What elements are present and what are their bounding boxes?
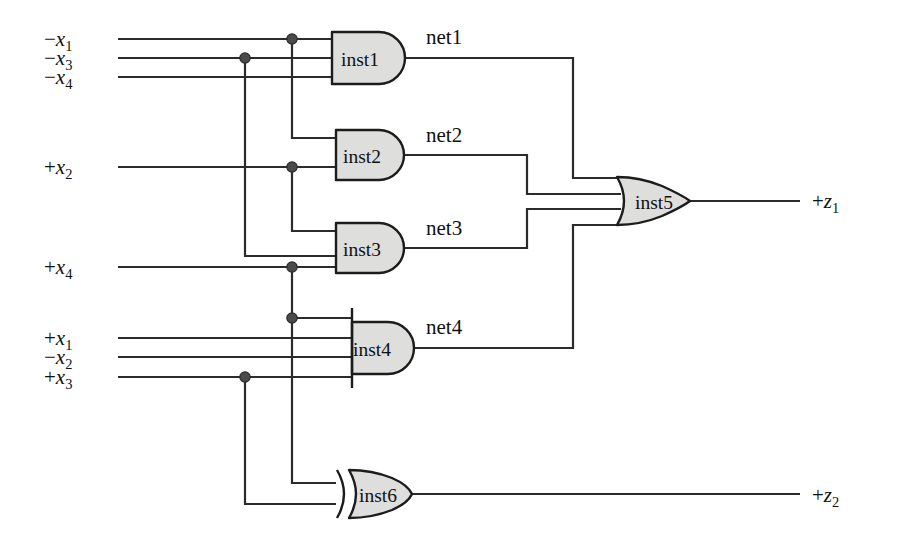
gate-inst5[interactable]: inst5 xyxy=(617,177,690,225)
input-px2-sub: 2 xyxy=(65,166,72,182)
input-px3-sub: 3 xyxy=(65,376,72,392)
wire-layer xyxy=(118,39,800,504)
junction-dot-nx3 xyxy=(240,53,250,63)
gate-inst4[interactable]: inst4 xyxy=(352,308,414,388)
output-pz2-var: z xyxy=(823,483,832,507)
wire-net1 xyxy=(403,58,621,178)
input-nx2-sub: 2 xyxy=(65,356,72,372)
input-label-px4: +x4 xyxy=(44,255,73,282)
input-px4-sign: + xyxy=(44,255,56,279)
net-label-net3: net3 xyxy=(426,216,462,240)
junction-layer xyxy=(240,34,297,382)
junction-dot-px3 xyxy=(240,372,250,382)
inst5-label: inst5 xyxy=(635,192,673,213)
net-label-net4: net4 xyxy=(426,315,463,339)
input-px2-sign: + xyxy=(44,155,56,179)
junction-dot-px4 xyxy=(287,262,297,272)
input-px1-sub: 1 xyxy=(65,337,72,353)
net-label-layer: net1 net2 net3 net4 xyxy=(426,25,463,339)
inst1-label: inst1 xyxy=(341,49,379,70)
output-label-pz1: +z1 xyxy=(812,189,839,216)
inst2-label: inst2 xyxy=(343,146,381,167)
input-px3-sign: + xyxy=(44,365,56,389)
output-label-pz2: +z2 xyxy=(812,483,839,510)
junction-dot-px4-tap xyxy=(287,313,297,323)
wire-px4-down xyxy=(292,267,336,483)
wire-px2-to-inst3 xyxy=(292,167,336,231)
gate-inst2[interactable]: inst2 xyxy=(336,130,404,180)
junction-dot-nx1 xyxy=(287,34,297,44)
inst6-label: inst6 xyxy=(359,485,397,506)
gate-inst3[interactable]: inst3 xyxy=(336,223,404,273)
output-label-layer: +z1 +z2 xyxy=(812,189,839,510)
net-label-net1: net1 xyxy=(426,25,462,49)
input-nx3-sub: 3 xyxy=(65,57,72,73)
wire-net2 xyxy=(403,155,621,194)
junction-dot-px2 xyxy=(287,162,297,172)
inst3-label: inst3 xyxy=(343,239,381,260)
net-label-net2: net2 xyxy=(426,123,462,147)
wire-nx3-to-inst3 xyxy=(245,58,336,256)
output-pz1-sign: + xyxy=(812,189,824,213)
input-label-px2: +x2 xyxy=(44,155,72,182)
input-nx4-sub: 4 xyxy=(65,76,73,92)
input-px4-sub: 4 xyxy=(65,266,73,282)
output-pz2-sign: + xyxy=(812,483,824,507)
schematic-canvas: inst1 inst2 inst3 inst4 inst5 inst6 xyxy=(0,0,898,551)
wire-px3-to-inst6 xyxy=(245,377,336,504)
wire-nx1-to-inst2 xyxy=(292,39,336,138)
logic-circuit-diagram: inst1 inst2 inst3 inst4 inst5 inst6 xyxy=(0,0,898,551)
input-nx4-sign: − xyxy=(44,65,56,89)
output-pz1-sub: 1 xyxy=(832,200,839,216)
input-label-layer: −x1 −x3 −x4 +x2 +x4 +x1 −x2 +x3 xyxy=(44,27,73,392)
input-nx1-sub: 1 xyxy=(65,38,72,54)
output-pz1-var: z xyxy=(823,189,832,213)
inst6-xor-arc xyxy=(337,470,344,518)
inst4-label: inst4 xyxy=(353,339,391,360)
output-pz2-sub: 2 xyxy=(832,494,839,510)
gate-inst6[interactable]: inst6 xyxy=(337,470,412,518)
gate-inst1[interactable]: inst1 xyxy=(332,32,405,84)
